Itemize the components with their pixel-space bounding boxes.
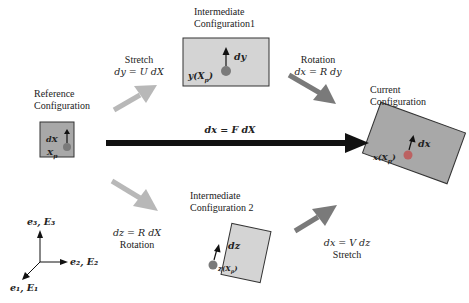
- stretch-v-name: Stretch: [312, 249, 382, 261]
- intermediate1-title-line2: Configuration1: [194, 18, 255, 30]
- stretch-u-name: Stretch: [104, 54, 174, 66]
- intermediate2-vector-label: dz: [228, 240, 240, 252]
- current-point-label: x(Xp): [373, 151, 396, 167]
- reference-point-sub: p: [53, 152, 57, 159]
- rotation-r-top-equation: dx = R dy: [283, 66, 353, 78]
- axis-e1-label: e₁, E₁: [10, 282, 38, 294]
- current-title-line2: Configuration: [370, 96, 426, 108]
- deformation-f-equation: dx = F dX: [190, 124, 270, 136]
- reference-vector-label: dX: [46, 133, 58, 145]
- rotation-r-bottom-arrow: [112, 181, 158, 211]
- reference-point-label: Xp: [47, 146, 57, 162]
- stretch-u-equation: dy = U dX: [104, 66, 174, 78]
- current-title: Current Configuration: [370, 84, 426, 108]
- intermediate1-title-line1: Intermediate: [194, 6, 255, 18]
- intermediate1-vector-label: dy: [234, 51, 246, 63]
- current-title-line1: Current: [370, 84, 426, 96]
- stretch-v-equation: dx = V dz: [312, 237, 382, 249]
- rotation-r-bottom-equation: dz = R dX: [102, 227, 172, 239]
- rotation-r-bottom-label: dz = R dX Rotation: [102, 227, 172, 251]
- stretch-u-label: Stretch dy = U dX: [104, 54, 174, 78]
- rotation-r-top-name: Rotation: [283, 54, 353, 66]
- intermediate2-title-line1: Intermediate: [190, 190, 254, 202]
- intermediate2-point-close: ): [234, 264, 237, 273]
- current-vector-label: dx: [418, 138, 430, 150]
- intermediate2-point-main: z(X: [218, 264, 231, 273]
- deformation-f-arrow: [106, 133, 369, 153]
- intermediate1-point-main: y(X: [188, 71, 204, 81]
- axis-e3-label: e₃, E₃: [27, 216, 55, 228]
- intermediate1-point-label: y(Xp): [188, 70, 213, 86]
- intermediate2-title-line2: Configuration 2: [190, 202, 254, 214]
- intermediate2-title: Intermediate Configuration 2: [190, 190, 254, 214]
- reference-title: Reference Configuration: [34, 88, 90, 112]
- current-point-main: x(X: [373, 152, 388, 162]
- intermediate2-point-label: z(Xp): [218, 263, 238, 277]
- current-box: [362, 102, 465, 184]
- intermediate1-title: Intermediate Configuration1: [194, 6, 255, 30]
- reference-title-line1: Reference: [34, 88, 90, 100]
- stretch-v-arrow: [295, 205, 337, 231]
- rotation-r-top-arrow: [289, 75, 336, 104]
- rotation-r-top-label: Rotation dx = R dy: [283, 54, 353, 78]
- axis-e2-label: e₂, E₂: [70, 256, 98, 268]
- stretch-v-label: dx = V dz Stretch: [312, 237, 382, 261]
- intermediate1-point-close: ): [209, 71, 213, 81]
- coordinate-axes: [22, 230, 68, 280]
- stretch-u-arrow: [114, 85, 157, 110]
- rotation-r-bottom-name: Rotation: [102, 239, 172, 251]
- reference-title-line2: Configuration: [34, 100, 90, 112]
- current-point-close: ): [392, 152, 396, 162]
